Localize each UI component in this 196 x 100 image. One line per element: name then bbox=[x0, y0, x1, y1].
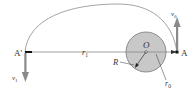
label-R: R bbox=[112, 57, 119, 67]
label-O: O bbox=[143, 40, 150, 50]
point-A-marker bbox=[176, 51, 179, 54]
label-v1: v1 bbox=[12, 74, 18, 83]
v0-arrow-shaft bbox=[176, 26, 178, 50]
v1-arrow-shaft bbox=[24, 53, 26, 73]
label-r1: r1 bbox=[82, 48, 88, 58]
orbit-diagram: A' A O r1 R r0 v0 v1 bbox=[0, 0, 196, 100]
v1-arrow-head bbox=[22, 72, 29, 82]
label-A-prime: A' bbox=[14, 48, 22, 58]
label-v0: v0 bbox=[171, 10, 177, 19]
label-A: A bbox=[181, 48, 188, 58]
label-r0: r0 bbox=[165, 79, 171, 89]
